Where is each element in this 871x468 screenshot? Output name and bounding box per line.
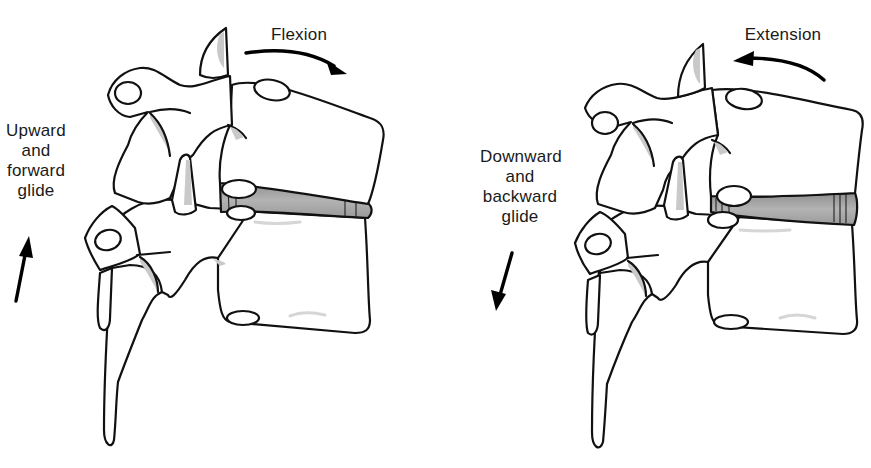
lower-endplate-facet: [227, 206, 255, 220]
flexion-panel: [16, 28, 384, 445]
curved-arrow-counterclockwise-icon: [733, 51, 824, 80]
lower-spinous-process: [592, 268, 660, 447]
lower-body-endplate-mark: [714, 315, 748, 329]
curved-arrow-clockwise-icon: [246, 51, 347, 75]
upper-superior-articular-spike: [678, 44, 705, 97]
upper-transverse-facet: [592, 112, 618, 134]
upper-endplate-facet: [222, 180, 256, 198]
vertebra-diagram: [0, 0, 871, 468]
lower-inferior-articular: [98, 268, 112, 330]
arrow-up-icon: [16, 236, 33, 301]
upper-endplate-facet: [717, 186, 751, 206]
lower-spinous-process: [104, 262, 170, 445]
upper-arch: [585, 84, 718, 214]
arrow-down-icon: [491, 253, 512, 311]
lower-inferior-articular: [586, 275, 600, 335]
upper-transverse-facet: [115, 82, 141, 104]
lower-endplate-facet: [708, 212, 738, 228]
lower-body-endplate-mark: [227, 311, 259, 325]
extension-panel: [491, 44, 863, 447]
